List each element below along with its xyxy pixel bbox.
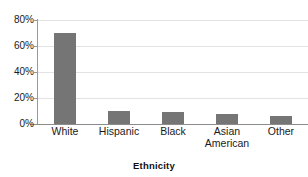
y-axis-tick-label: 20% — [2, 93, 34, 103]
bar — [162, 112, 184, 124]
x-axis-tick-label-line: Other — [268, 125, 294, 137]
y-axis-tick-label: 80% — [2, 15, 34, 25]
x-axis-tick-label-line: Black — [160, 125, 186, 137]
x-axis-tick-label: Hispanic — [89, 126, 149, 138]
x-axis-tick-label-line: American — [197, 138, 257, 150]
y-axis-tick-label: 60% — [2, 41, 34, 51]
plot-area — [38, 20, 308, 124]
bar-chart: 0%20%40%60%80% WhiteHispanicBlackAsianAm… — [0, 0, 308, 177]
x-axis-tick-label-line: Hispanic — [99, 125, 139, 137]
bar-slot — [254, 20, 308, 124]
bar — [270, 116, 292, 124]
x-axis-tick-label: Other — [251, 126, 308, 138]
x-axis-tick-label: Black — [143, 126, 203, 138]
bar — [108, 111, 130, 124]
bar-slot — [200, 20, 254, 124]
bar — [54, 33, 76, 124]
x-axis-title: Ethnicity — [0, 160, 308, 171]
y-axis-tick-label: 40% — [2, 67, 34, 77]
bar-slot — [146, 20, 200, 124]
bar — [216, 114, 238, 124]
y-axis-tick-label: 0% — [2, 119, 34, 129]
y-axis-line — [37, 19, 38, 125]
x-axis-tick-labels: WhiteHispanicBlackAsianAmericanOther — [38, 126, 308, 156]
bar-series — [38, 20, 308, 124]
x-axis-tick-label: White — [35, 126, 95, 138]
bar-slot — [92, 20, 146, 124]
x-axis-tick-label-line: White — [52, 125, 79, 137]
bar-slot — [38, 20, 92, 124]
x-axis-tick-label: AsianAmerican — [197, 126, 257, 149]
x-axis-tick-label-line: Asian — [214, 125, 240, 137]
